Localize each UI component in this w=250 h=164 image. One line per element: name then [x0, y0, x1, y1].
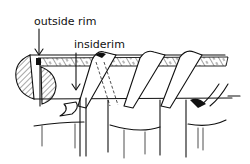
inside-rim [40, 66, 56, 106]
outside-rim-label: outside rim [34, 15, 96, 28]
rim-diagram: outside rim insiderim [0, 0, 250, 164]
outside-rim-arrow [35, 29, 43, 55]
wrap-band-4 [190, 84, 228, 108]
basket-stakes [34, 96, 240, 158]
inside-rim-label: insiderim [74, 38, 125, 51]
